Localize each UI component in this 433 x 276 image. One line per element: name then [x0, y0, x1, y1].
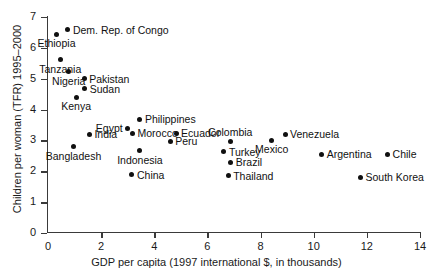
data-point — [87, 132, 92, 137]
y-tick-mark — [41, 233, 47, 234]
x-tick-label: 4 — [144, 240, 164, 252]
data-point — [269, 138, 274, 143]
data-point — [137, 148, 142, 153]
data-point — [129, 172, 134, 177]
data-point-label: Kenya — [61, 101, 91, 112]
scatter-chart: 0123456702468101214 Dem. Rep. of CongoEt… — [0, 0, 433, 276]
data-point — [137, 117, 142, 122]
data-point — [125, 126, 130, 131]
x-tick-label: 2 — [91, 240, 111, 252]
y-tick-mark — [41, 140, 47, 141]
data-point — [319, 152, 324, 157]
data-point — [168, 139, 173, 144]
data-point-label: Thailand — [233, 171, 273, 182]
data-point-label: Morocco — [137, 128, 177, 139]
data-point-label: Peru — [175, 136, 197, 147]
data-point — [358, 175, 363, 180]
data-point-label: Colombia — [208, 127, 252, 138]
x-axis-line — [47, 232, 421, 233]
data-point — [221, 149, 226, 154]
data-point-label: Sudan — [90, 83, 120, 94]
data-point-label: Chile — [393, 149, 417, 160]
y-axis-title: Children per woman (TFR) 1995–2000 — [11, 9, 23, 229]
data-point-label: Philippines — [145, 114, 196, 125]
data-point-label: China — [137, 170, 164, 181]
x-tick-label: 10 — [304, 240, 324, 252]
data-point — [228, 139, 233, 144]
x-tick-mark — [101, 232, 102, 238]
x-tick-mark — [154, 232, 155, 238]
data-point-label: Dem. Rep. of Congo — [73, 25, 169, 36]
data-point-label: Brazil — [236, 157, 262, 168]
y-tick-mark — [41, 110, 47, 111]
data-point-label: Argentina — [327, 149, 372, 160]
x-tick-mark — [367, 232, 368, 238]
data-point-label: Ethiopia — [38, 38, 76, 49]
data-point — [385, 152, 390, 157]
data-point — [82, 76, 87, 81]
data-point — [283, 132, 288, 137]
y-tick-mark — [41, 17, 47, 18]
data-point-label: Bangladesh — [46, 151, 101, 162]
data-point-label: India — [94, 129, 117, 140]
data-point — [130, 131, 135, 136]
x-tick-label: 0 — [38, 240, 58, 252]
x-tick-label: 12 — [357, 240, 377, 252]
data-point-label: Venezuela — [290, 129, 339, 140]
x-tick-label: 14 — [410, 240, 430, 252]
x-tick-label: 8 — [251, 240, 271, 252]
y-tick-mark — [41, 202, 47, 203]
data-point — [65, 27, 70, 32]
data-point — [228, 160, 233, 165]
data-point — [54, 32, 59, 37]
x-tick-mark — [207, 232, 208, 238]
data-point-label: Indonesia — [117, 155, 163, 166]
x-tick-mark — [261, 232, 262, 238]
data-point-label: Nigeria — [52, 76, 85, 87]
data-point — [74, 95, 79, 100]
data-point — [58, 57, 63, 62]
x-tick-label: 6 — [197, 240, 217, 252]
x-tick-mark — [420, 232, 421, 238]
x-tick-mark — [314, 232, 315, 238]
data-point-label: South Korea — [365, 172, 423, 183]
x-axis-title: GDP per capita (1997 international $, in… — [0, 256, 433, 268]
data-point — [71, 144, 76, 149]
data-point — [226, 173, 231, 178]
data-point-label: Tanzania — [39, 64, 81, 75]
y-tick-mark — [41, 171, 47, 172]
y-tick-mark — [41, 79, 47, 80]
data-point — [82, 86, 87, 91]
